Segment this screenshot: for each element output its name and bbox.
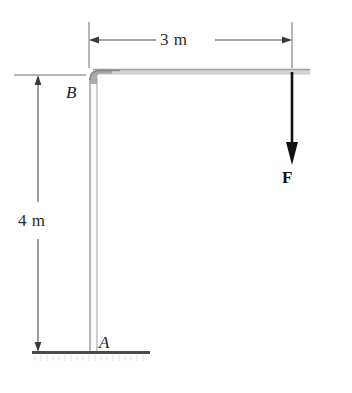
dimension-label-horizontal: 3 m [160, 30, 187, 50]
ground-support-group [32, 353, 150, 362]
force-arrow-group [286, 72, 298, 165]
ground-hatching [35, 355, 143, 361]
dimension-arrowhead-left [89, 37, 99, 44]
point-label-b: B [66, 83, 76, 103]
dimension-arrowhead-top [35, 75, 42, 85]
dimension-arrowhead-right [282, 37, 292, 44]
statics-diagram [0, 0, 352, 393]
point-label-a: A [99, 333, 109, 353]
dimension-label-vertical: 4 m [18, 211, 45, 231]
frame-member-group [90, 70, 311, 353]
figure-canvas: 3 m 4 m B A F [0, 0, 352, 393]
force-arrowhead [286, 142, 298, 165]
dimension-horizontal-group [89, 22, 292, 68]
dimension-arrowhead-bottom [35, 342, 42, 352]
force-label-f: F [282, 168, 292, 188]
